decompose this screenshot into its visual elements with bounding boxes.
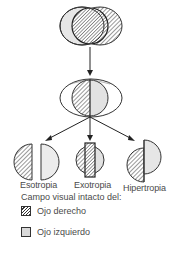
arrow-down-icon [87, 47, 93, 76]
hatched-swatch-icon [21, 206, 31, 216]
fused-field-middle [60, 79, 122, 117]
legend-label: Ojo derecho [37, 206, 86, 216]
legend-title: Campo visual intacto del: [21, 192, 122, 202]
esotropia-figure [14, 144, 59, 180]
exotropia-label: Exotropia [74, 180, 111, 190]
hipertropia-label: Hipertropia [123, 183, 166, 193]
legend-item-left-eye: Ojo izquierdo [21, 227, 90, 237]
visual-field-diagram [0, 0, 180, 255]
binocular-field-top [60, 7, 122, 45]
esotropia-label: Esotropia [20, 180, 57, 190]
legend-label: Ojo izquierdo [37, 227, 90, 237]
legend-item-right-eye: Ojo derecho [21, 206, 86, 216]
branch-arrows [45, 117, 135, 141]
gray-swatch-icon [21, 227, 31, 237]
exotropia-figure [76, 143, 104, 177]
hipertropia-figure [127, 140, 161, 182]
